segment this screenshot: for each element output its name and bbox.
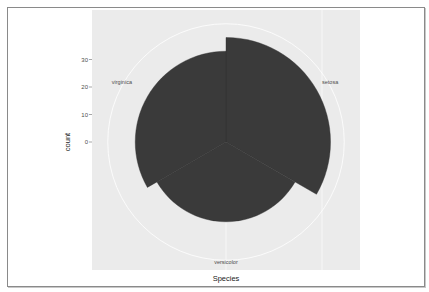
- y-tick-label: 20: [81, 84, 88, 90]
- y-tick-label: 30: [81, 57, 88, 63]
- x-axis-title: Species: [213, 274, 240, 283]
- category-label-versicolor: versicolor: [214, 259, 238, 265]
- polar-bar-chart: setosaversicolorvirginica 0102030 Specie…: [0, 0, 429, 292]
- category-label-setosa: setosa: [322, 79, 339, 85]
- category-label-virginica: virginica: [112, 79, 133, 85]
- y-tick-label: 10: [81, 112, 88, 118]
- y-axis: 0102030: [81, 57, 92, 146]
- y-axis-title: count: [63, 132, 72, 151]
- y-tick-label: 0: [85, 139, 89, 145]
